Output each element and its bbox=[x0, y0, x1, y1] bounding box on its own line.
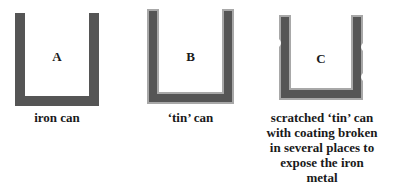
can-label-c: C bbox=[279, 51, 363, 67]
iron-can-diagram: A bbox=[15, 13, 99, 106]
caption-iron-can: iron can bbox=[15, 110, 99, 125]
caption-line: with coating broken bbox=[262, 125, 382, 140]
scratched-tin-can-diagram: C bbox=[279, 15, 363, 100]
caption-line: metal bbox=[262, 170, 382, 185]
caption-line: scratched ‘tin’ can bbox=[262, 110, 382, 125]
caption-scratched-tin-can: scratched ‘tin’ can with coating broken … bbox=[262, 110, 382, 185]
caption-tin-can: ‘tin’ can bbox=[147, 110, 234, 125]
caption-line: expose the iron bbox=[262, 155, 382, 170]
caption-line: in several places to bbox=[262, 140, 382, 155]
can-label-a: A bbox=[15, 49, 99, 65]
tin-can-diagram: B bbox=[147, 9, 234, 104]
can-label-b: B bbox=[147, 49, 234, 65]
